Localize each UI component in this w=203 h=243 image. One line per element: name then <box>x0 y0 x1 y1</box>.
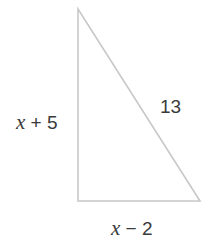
hypotenuse-value: 13 <box>160 96 181 117</box>
hypotenuse-label: 13 <box>160 97 181 116</box>
bottom-leg-variable: x <box>111 216 120 240</box>
left-leg-expression: + 5 <box>25 112 57 133</box>
left-leg-variable: x <box>16 110 25 134</box>
bottom-leg-label: x − 2 <box>111 218 153 239</box>
right-triangle <box>78 9 200 201</box>
left-leg-label: x + 5 <box>16 112 58 133</box>
bottom-leg-expression: − 2 <box>120 218 152 239</box>
